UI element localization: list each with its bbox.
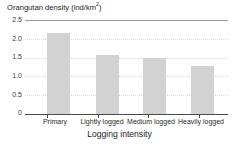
category-label-heavily-logged: Heavily logged bbox=[172, 117, 230, 126]
bar-medium-logged[interactable] bbox=[143, 58, 166, 114]
y-tick-label-1-5: 1.5 bbox=[2, 53, 22, 61]
y-tick-label-0: 0 bbox=[2, 109, 22, 117]
bar-primary[interactable] bbox=[47, 33, 70, 114]
orangutan-density-bar-chart: Orangutan density (ind/km2) 2.5 2.0 1.5 … bbox=[0, 0, 239, 149]
y-axis-title-base: Orangutan density (ind/km bbox=[7, 3, 96, 12]
bar-lightly-logged[interactable] bbox=[96, 55, 119, 114]
plot-area bbox=[25, 20, 228, 114]
bar-heavily-logged[interactable] bbox=[191, 66, 214, 114]
y-tick-label-2-0: 2.0 bbox=[2, 35, 22, 43]
y-axis-title-tail: ) bbox=[99, 3, 102, 12]
y-tick-label-1-0: 1.0 bbox=[2, 72, 22, 80]
x-axis-title: Logging intensity bbox=[0, 129, 239, 140]
y-axis-title: Orangutan density (ind/km2) bbox=[7, 3, 102, 13]
y-tick-label-2-5: 2.5 bbox=[2, 16, 22, 24]
x-axis-line bbox=[25, 114, 228, 115]
bars-layer bbox=[25, 20, 228, 114]
y-tick-label-0-5: 0.5 bbox=[2, 91, 22, 99]
